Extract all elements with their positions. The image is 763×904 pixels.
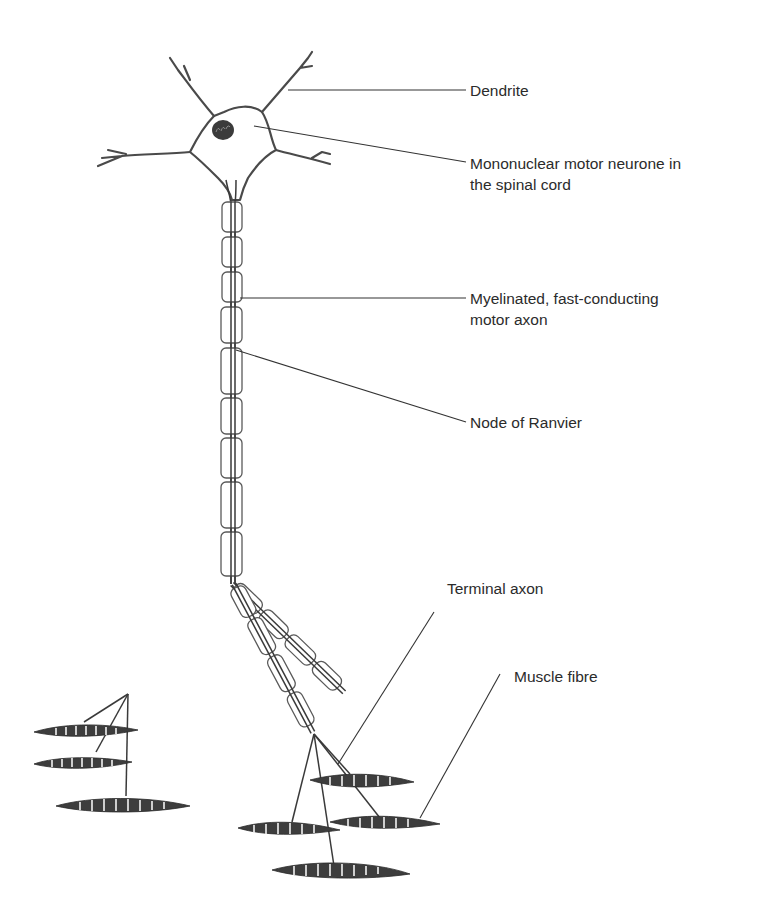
myelin-sheath-segments — [221, 202, 242, 584]
label-myelinated-axon-line-1: Myelinated, fast-conducting — [470, 288, 659, 309]
muscle-fibres — [34, 725, 440, 878]
muscle-fibre — [56, 799, 190, 813]
label-muscle-fibre: Muscle fibre — [514, 666, 598, 687]
leader-cell-body — [254, 126, 466, 162]
label-cell-body-line-2: the spinal cord — [470, 174, 681, 195]
nucleus — [212, 120, 234, 140]
label-terminal-axon: Terminal axon — [447, 578, 544, 599]
label-myelinated-axon-line-2: motor axon — [470, 309, 659, 330]
label-dendrite-line-1: Dendrite — [470, 80, 529, 101]
muscle-fibre — [238, 822, 340, 834]
leader-muscle-fibre — [420, 674, 500, 818]
label-node-of-ranvier: Node of Ranvier — [470, 412, 582, 433]
leader-terminal-axon — [338, 612, 434, 764]
leader-lines — [236, 90, 500, 818]
muscle-fibre — [330, 816, 440, 828]
motor-neurone-diagram — [0, 0, 763, 904]
muscle-fibre — [34, 725, 138, 736]
leader-node-of-ranvier — [236, 350, 466, 422]
muscle-fibre — [310, 774, 414, 787]
label-muscle-fibre-line-1: Muscle fibre — [514, 666, 598, 687]
label-terminal-axon-line-1: Terminal axon — [447, 578, 544, 599]
label-node-of-ranvier-line-1: Node of Ranvier — [470, 412, 582, 433]
muscle-fibre — [272, 863, 410, 878]
muscle-fibre — [34, 758, 132, 769]
label-cell-body: Mononuclear motor neurone in the spinal … — [470, 153, 681, 195]
label-myelinated-axon: Myelinated, fast-conducting motor axon — [470, 288, 659, 330]
neurone-cell-body — [98, 52, 330, 204]
label-cell-body-line-1: Mononuclear motor neurone in — [470, 153, 681, 174]
label-dendrite: Dendrite — [470, 80, 529, 101]
